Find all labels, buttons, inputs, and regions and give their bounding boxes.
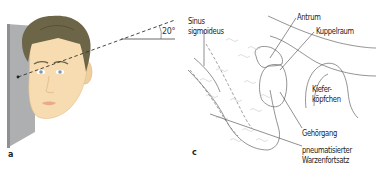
pneumatized-cells	[200, 39, 272, 142]
figure-panel-a: 20° a	[0, 0, 190, 175]
mastoid-inner-contour	[194, 58, 220, 92]
figure-panel-c: Sinus sigmoideus Antrum Kuppelraum Kiefe…	[186, 0, 377, 175]
label-gehoergang: Gehörgang	[302, 128, 337, 138]
label-kiefer: Kiefer-	[312, 84, 332, 94]
ear-canal-outline	[260, 65, 287, 107]
label-koepfchen: köpfchen	[312, 94, 341, 104]
panel-letter-a: a	[8, 150, 13, 159]
label-antrum: Antrum	[297, 12, 321, 22]
pointer-dot	[17, 76, 20, 79]
panel-letter-c: c	[192, 148, 197, 157]
label-pneumatisierter: pneumatisierter	[302, 145, 352, 155]
leader-warzenfortsatz	[210, 114, 302, 146]
angle-label: 20°	[162, 27, 175, 36]
label-sigmoideus: sigmoideus	[188, 26, 224, 36]
antrum-outline	[255, 46, 282, 67]
leader-gehoergang	[280, 92, 302, 128]
leader-antrum	[270, 18, 296, 58]
label-kuppelraum: Kuppelraum	[316, 26, 354, 36]
label-sinus: Sinus	[188, 16, 205, 26]
label-warzenfortsatz: Warzenfortsatz	[302, 155, 349, 165]
wall-edge	[7, 24, 10, 148]
middle-contour	[270, 36, 376, 76]
leader-kuppelraum	[280, 32, 314, 70]
mastoid-contour	[188, 70, 280, 150]
